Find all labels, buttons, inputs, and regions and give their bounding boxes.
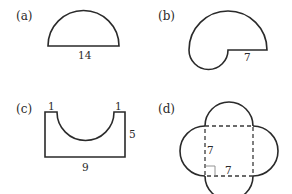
right-semicircle	[253, 126, 278, 176]
left-ledge-label: 1	[48, 100, 55, 112]
right-angle-marker	[205, 166, 215, 176]
spiral-shape	[189, 11, 267, 70]
panel-a: (a) 14	[16, 9, 119, 61]
panel-b: (b) 7	[158, 9, 267, 70]
panel-c-label: (c)	[16, 102, 32, 116]
horizontal-side-label: 7	[225, 164, 232, 176]
left-semicircle	[180, 126, 205, 176]
semicircle-shape	[48, 11, 119, 46]
vertical-side-label: 7	[207, 144, 214, 156]
height-label: 5	[129, 128, 136, 140]
segment-label: 7	[244, 51, 251, 63]
width-label: 9	[82, 161, 89, 173]
panel-c: (c) 1 1 5 9	[16, 100, 136, 173]
top-semicircle	[205, 102, 253, 126]
panel-d-label: (d)	[158, 102, 175, 116]
panel-b-label: (b)	[158, 9, 175, 23]
panel-a-label: (a)	[16, 9, 33, 23]
cutout-rectangle-shape	[45, 112, 125, 157]
bottom-semicircle	[205, 176, 253, 194]
right-ledge-label: 1	[115, 100, 122, 112]
diameter-label: 14	[78, 49, 92, 61]
geometry-figure: (a) 14 (b) 7 (c) 1 1 5 9 (d) 7 7	[0, 0, 292, 194]
panel-d: (d) 7 7	[158, 102, 278, 194]
